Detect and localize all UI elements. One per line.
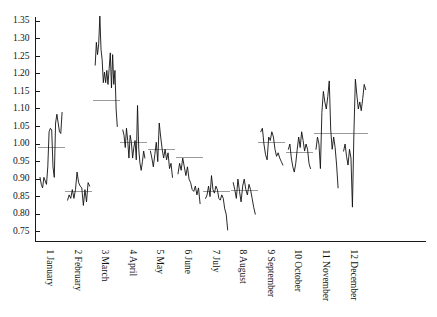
y-tick-label: 0.90 <box>13 173 30 183</box>
y-tick-label: 0.95 <box>13 156 30 166</box>
y-tick-label: 1.00 <box>13 138 30 148</box>
chart-container: 1.351.301.251.201.151.101.051.000.950.90… <box>0 0 437 317</box>
y-tick-label: 1.35 <box>13 15 30 25</box>
series-segment-line <box>68 172 90 205</box>
x-tick-label: 2 February <box>73 250 83 292</box>
series-segment-line <box>206 176 228 230</box>
x-tick-label: 1 January <box>45 250 55 287</box>
y-tick-label: 0.85 <box>13 191 30 201</box>
series-segment-line <box>288 132 310 172</box>
x-tick-label: 10 October <box>293 250 303 293</box>
series-segment-line <box>178 158 200 204</box>
x-tick-label: 3 March <box>100 250 110 282</box>
series-segment-line <box>261 128 283 165</box>
x-tick-label: 11 November <box>321 250 331 302</box>
x-tick-label: 4 April <box>128 250 138 277</box>
y-tick-label: 1.10 <box>13 103 30 113</box>
series-segment-line <box>233 179 255 214</box>
y-tick-label: 1.25 <box>13 51 30 61</box>
y-tick-label: 1.30 <box>13 33 30 43</box>
x-tick-label: 12 December <box>349 250 359 302</box>
y-tick-label: 0.75 <box>13 226 30 236</box>
x-tick-label: 5 May <box>155 250 165 275</box>
x-tick-label: 6 June <box>183 250 193 275</box>
x-tick-label: 9 September <box>266 250 276 299</box>
y-tick-label: 0.80 <box>13 208 30 218</box>
y-tick-labels: 1.351.301.251.201.151.101.051.000.950.90… <box>13 15 30 235</box>
x-tick-labels: 1 January2 February3 March4 April5 May6 … <box>45 250 359 302</box>
segment-mean-lines <box>38 100 369 191</box>
series-segment-line <box>40 112 62 187</box>
series-segment-line <box>123 105 145 170</box>
series-segment-line <box>150 123 172 177</box>
series-segment-line <box>316 81 338 188</box>
x-tick-label: 7 July <box>211 250 221 273</box>
y-axis <box>36 17 40 242</box>
y-tick-label: 1.15 <box>13 86 30 96</box>
series-segment-line <box>344 79 366 207</box>
series-segment-line <box>95 16 117 126</box>
chart-plot-area: 1.351.301.251.201.151.101.051.000.950.90… <box>0 0 437 317</box>
y-tick-label: 1.20 <box>13 68 30 78</box>
data-series <box>40 16 366 230</box>
x-tick-label: 8 August <box>238 250 248 284</box>
y-tick-label: 1.05 <box>13 121 30 131</box>
